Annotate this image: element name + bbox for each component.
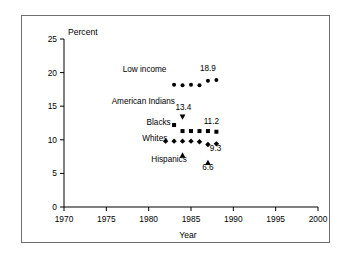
y-tick-label: 10 [48,135,58,145]
x-tick-label: 2000 [309,214,328,224]
data-point-circle [206,79,210,83]
y-tick-label: 25 [48,34,58,44]
x-tick-label: 1990 [224,214,243,224]
data-point-circle [197,83,201,87]
chart-annotation: 18.9 [200,64,216,73]
data-point-circle [214,78,218,82]
x-tick-label: 1985 [182,214,201,224]
data-point-square [189,129,193,133]
x-tick-label: 1995 [266,214,285,224]
data-point-triangle-down [180,114,186,119]
data-point-diamond [180,138,185,143]
data-point-circle [181,83,185,87]
y-tick-label: 20 [48,68,58,78]
data-point-square [197,129,201,133]
chart-annotation: Hispanics [151,155,187,164]
y-tick-label: 15 [48,101,58,111]
chart-annotation: 9.3 [210,144,222,153]
data-point-square [206,129,210,133]
data-point-diamond [171,138,176,143]
x-axis-title: Year [179,230,197,240]
y-axis-title: Percent [68,27,98,37]
scatter-plot: 05101520251970197519801985199019952000Pe… [0,0,352,260]
axes [64,39,318,207]
data-point-square [214,130,218,134]
y-tick-label: 5 [52,168,57,178]
data-point-circle [172,83,176,87]
chart-annotation: 13.4 [175,103,191,112]
x-tick-label: 1975 [97,214,116,224]
x-tick-label: 1980 [139,214,158,224]
chart-annotation: American Indians [112,97,175,106]
x-tick-label: 1970 [55,214,74,224]
annotations: Low income18.9American Indians13.4Blacks… [112,64,222,172]
data-point-circle [189,83,193,87]
data-point-diamond [197,139,202,144]
chart-annotation: 11.2 [204,117,220,126]
y-tick-label: 0 [52,202,57,212]
chart-annotation: 6.6 [202,163,214,172]
series-american-indians [180,114,186,119]
data-point-diamond [188,138,193,143]
y-axis-ticks: 0510152025 [48,34,64,212]
data-point-square [172,123,176,127]
series-low-income [172,78,218,87]
data-point-square [181,129,185,133]
x-axis-ticks: 1970197519801985199019952000 [55,207,328,224]
chart-figure: 05101520251970197519801985199019952000Pe… [0,0,352,260]
chart-annotation: Whites [142,134,167,143]
chart-annotation: Low income [123,65,167,74]
chart-annotation: Blacks [147,118,171,127]
